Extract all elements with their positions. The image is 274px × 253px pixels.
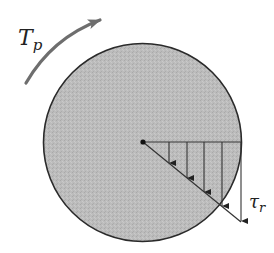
diagram-canvas: Tp τr [0, 0, 274, 253]
shear-stress-label: τr [249, 191, 266, 215]
torque-label: Tp [18, 25, 43, 54]
center-point [140, 139, 145, 144]
